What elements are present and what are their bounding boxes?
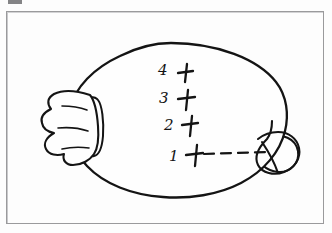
row-number-4: 4 xyxy=(157,61,168,79)
row-number-1: 1 xyxy=(169,147,179,165)
balloon-diagram: 4 3 2 xyxy=(6,11,324,224)
row-number-2: 2 xyxy=(163,116,174,134)
scan-artifact-mark xyxy=(8,0,22,4)
scanned-page: 4 3 2 xyxy=(0,0,332,233)
row-number-3: 3 xyxy=(159,89,169,107)
tied-knot-group xyxy=(42,91,99,165)
